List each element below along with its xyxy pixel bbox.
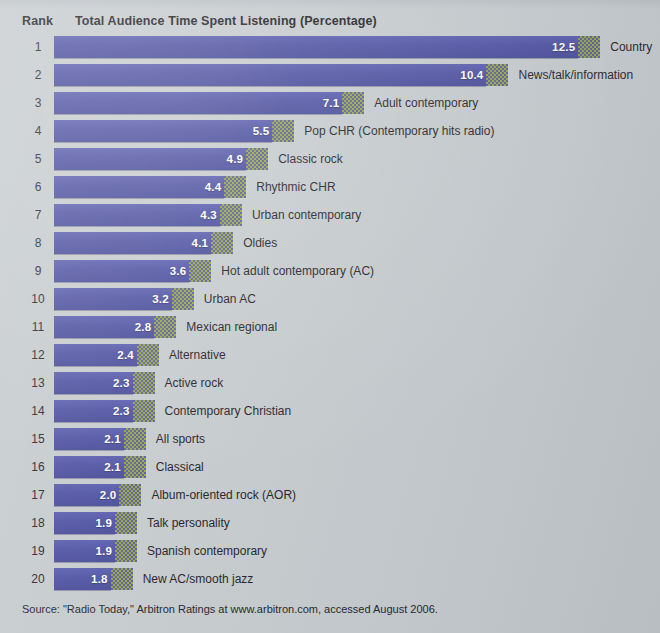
category-label: Mexican regional [186, 316, 277, 338]
chart-row: 45.5Pop CHR (Contemporary hits radio) [0, 120, 660, 148]
bar-end-checker [224, 176, 246, 198]
bar: 1.8 [54, 568, 111, 590]
radio-format-bar-chart: Rank Total Audience Time Spent Listening… [0, 0, 660, 633]
category-label: Classical [156, 456, 204, 478]
category-label: Urban contemporary [252, 204, 361, 226]
source-note: Source: "Radio Today," Arbitron Ratings … [22, 603, 438, 615]
bar-end-checker [124, 428, 146, 450]
rank-value: 5 [22, 148, 54, 170]
bar-end-checker [220, 204, 242, 226]
bar-value-label: 1.9 [95, 517, 115, 529]
bar-value-label: 2.8 [135, 321, 155, 333]
rank-value: 2 [22, 64, 54, 86]
chart-row: 37.1Adult contemporary [0, 92, 660, 120]
rank-value: 14 [22, 400, 54, 422]
chart-row: 112.8Mexican regional [0, 316, 660, 344]
bar-end-checker [133, 372, 155, 394]
bar: 2.0 [54, 484, 119, 506]
rank-value: 18 [22, 512, 54, 534]
category-label: Adult contemporary [374, 92, 478, 114]
category-label: Talk personality [147, 512, 230, 534]
bar-end-checker [133, 400, 155, 422]
chart-rows: 112.5Country210.4News/talk/information37… [0, 36, 660, 596]
bar: 2.4 [54, 344, 137, 366]
category-label: Album-oriented rock (AOR) [151, 484, 296, 506]
bar-value-label: 2.1 [104, 461, 124, 473]
category-label: Hot adult contemporary (AC) [221, 260, 374, 282]
bar: 12.5 [54, 36, 578, 58]
bar-group: 5.5 [54, 120, 294, 142]
bar-value-label: 1.8 [91, 573, 111, 585]
bar-value-label: 1.9 [95, 545, 115, 557]
bar-group: 2.1 [54, 456, 146, 478]
bar-value-label: 4.4 [205, 181, 225, 193]
bar-value-label: 5.5 [253, 125, 273, 137]
rank-value: 12 [22, 344, 54, 366]
chart-row: 191.9Spanish contemporary [0, 540, 660, 568]
chart-title: Total Audience Time Spent Listening (Per… [75, 14, 377, 28]
bar: 1.9 [54, 540, 115, 562]
bar-end-checker [154, 316, 176, 338]
chart-row: 93.6Hot adult contemporary (AC) [0, 260, 660, 288]
rank-value: 4 [22, 120, 54, 142]
bar-end-checker [211, 232, 233, 254]
rank-value: 8 [22, 232, 54, 254]
bar-end-checker [115, 512, 137, 534]
bar: 10.4 [54, 64, 486, 86]
bar: 4.1 [54, 232, 211, 254]
rank-value: 6 [22, 176, 54, 198]
rank-value: 3 [22, 92, 54, 114]
bar-value-label: 4.3 [200, 209, 220, 221]
rank-value: 13 [22, 372, 54, 394]
bar-value-label: 4.1 [192, 237, 212, 249]
bar-value-label: 7.1 [323, 97, 343, 109]
bar: 2.8 [54, 316, 154, 338]
chart-row: 103.2Urban AC [0, 288, 660, 316]
chart-row: 64.4Rhythmic CHR [0, 176, 660, 204]
bar-end-checker [137, 344, 159, 366]
bar-group: 4.4 [54, 176, 246, 198]
chart-row: 54.9Classic rock [0, 148, 660, 176]
bar-end-checker [124, 456, 146, 478]
bar: 2.3 [54, 400, 133, 422]
bar-value-label: 2.0 [100, 489, 120, 501]
chart-row: 210.4News/talk/information [0, 64, 660, 92]
rank-value: 10 [22, 288, 54, 310]
bar-value-label: 12.5 [552, 41, 578, 53]
bar-group: 2.0 [54, 484, 141, 506]
rank-value: 9 [22, 260, 54, 282]
bar: 2.1 [54, 456, 124, 478]
bar: 3.2 [54, 288, 172, 310]
chart-row: 172.0Album-oriented rock (AOR) [0, 484, 660, 512]
bar-group: 4.1 [54, 232, 233, 254]
category-label: All sports [156, 428, 205, 450]
chart-row: 122.4Alternative [0, 344, 660, 372]
bar-value-label: 4.9 [227, 153, 247, 165]
chart-row: 142.3Contemporary Christian [0, 400, 660, 428]
bar-value-label: 3.6 [170, 265, 190, 277]
category-label: Pop CHR (Contemporary hits radio) [304, 120, 494, 142]
bar-group: 2.1 [54, 428, 146, 450]
bar-group: 7.1 [54, 92, 364, 114]
bar: 7.1 [54, 92, 342, 114]
bar: 2.3 [54, 372, 133, 394]
category-label: Alternative [169, 344, 226, 366]
chart-row: 162.1Classical [0, 456, 660, 484]
rank-value: 1 [22, 36, 54, 58]
chart-row: 152.1All sports [0, 428, 660, 456]
bar-end-checker [189, 260, 211, 282]
chart-row: 132.3Active rock [0, 372, 660, 400]
bar-value-label: 3.2 [152, 293, 172, 305]
bar: 3.6 [54, 260, 189, 282]
category-label: Rhythmic CHR [256, 176, 335, 198]
category-label: Contemporary Christian [165, 400, 292, 422]
bar-value-label: 2.3 [113, 377, 133, 389]
rank-value: 17 [22, 484, 54, 506]
category-label: Active rock [165, 372, 224, 394]
chart-row: 74.3Urban contemporary [0, 204, 660, 232]
rank-value: 11 [22, 316, 54, 338]
bar-group: 12.5 [54, 36, 600, 58]
bar-value-label: 10.4 [460, 69, 486, 81]
bar: 4.9 [54, 148, 246, 170]
chart-row: 112.5Country [0, 36, 660, 64]
